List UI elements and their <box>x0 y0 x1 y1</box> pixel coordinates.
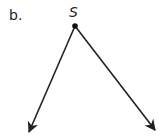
angle-diagram <box>0 0 163 139</box>
vertex-point <box>72 23 78 29</box>
ray-right <box>75 26 155 130</box>
ray-left <box>29 26 75 132</box>
